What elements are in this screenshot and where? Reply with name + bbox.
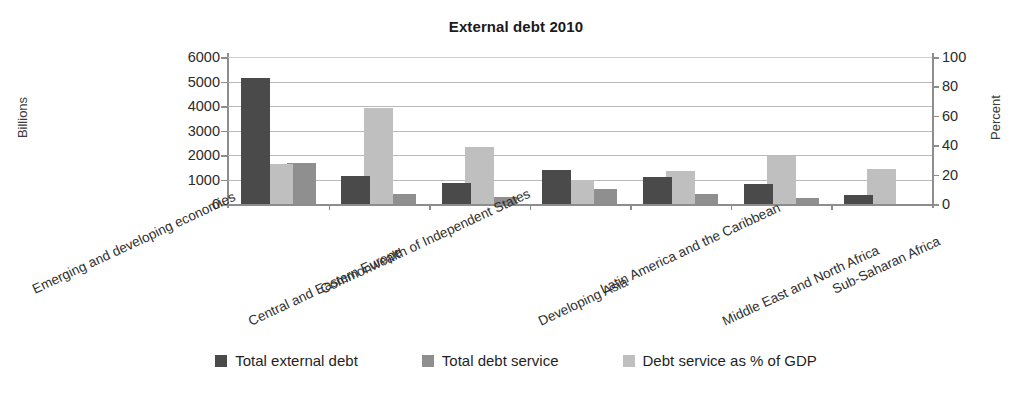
bar-group <box>530 57 631 204</box>
y-tick-left <box>221 106 227 108</box>
y-axis-right-line <box>932 53 934 208</box>
y-tick-label-right: 80 <box>942 79 992 94</box>
plot-area: 0100020003000400050006000 020406080100 <box>228 57 932 204</box>
bar <box>844 195 873 204</box>
legend-swatch-icon <box>215 355 227 367</box>
y-tick-label-left: 6000 <box>160 50 220 65</box>
y-tick-label-right: 100 <box>942 50 992 65</box>
y-tick-label-left: 5000 <box>160 75 220 90</box>
legend-item[interactable]: Total external debt <box>215 352 358 369</box>
bar-group <box>831 57 932 204</box>
bar <box>442 183 471 204</box>
bar-group <box>731 57 832 204</box>
y-tick-right <box>933 175 939 177</box>
x-category-label: Emerging and developing economies <box>30 189 238 296</box>
legend-swatch-icon <box>623 355 635 367</box>
y-tick-label-right: 20 <box>942 168 992 183</box>
y-tick-left <box>221 131 227 133</box>
y-tick-label-left: 2000 <box>160 148 220 163</box>
bar <box>241 78 270 204</box>
bar-group <box>630 57 731 204</box>
chart-title: External debt 2010 <box>0 18 1032 35</box>
x-axis-category-labels: Emerging and developing economiesCentral… <box>0 205 1032 335</box>
legend-swatch-icon <box>422 355 434 367</box>
y-tick-label-right: 40 <box>942 138 992 153</box>
bar-group <box>228 57 329 204</box>
y-tick-right <box>933 145 939 147</box>
bar-group <box>329 57 430 204</box>
y-tick-label-left: 1000 <box>160 173 220 188</box>
bar <box>643 177 672 204</box>
y-tick-left <box>221 180 227 182</box>
bar <box>744 184 773 204</box>
y-tick-left <box>221 82 227 84</box>
y-tick-left <box>221 155 227 157</box>
y-tick-label-right: 60 <box>942 109 992 124</box>
bar <box>542 170 571 204</box>
bar <box>341 176 370 204</box>
y-tick-right <box>933 86 939 88</box>
legend-label: Debt service as % of GDP <box>643 352 817 369</box>
legend-item[interactable]: Debt service as % of GDP <box>623 352 817 369</box>
legend-label: Total debt service <box>442 352 559 369</box>
y-tick-label-left: 3000 <box>160 124 220 139</box>
x-category-label: Latin America and the Caribbean <box>598 200 783 297</box>
chart-legend: Total external debtTotal debt serviceDeb… <box>0 352 1032 369</box>
y-tick-right <box>933 116 939 118</box>
y-tick-left <box>221 57 227 59</box>
y-axis-label-left: Billions <box>15 78 30 158</box>
chart-container: External debt 2010 Billions Percent 0100… <box>0 0 1032 401</box>
y-tick-right <box>933 57 939 59</box>
legend-label: Total external debt <box>235 352 358 369</box>
legend-item[interactable]: Total debt service <box>422 352 559 369</box>
bar-group <box>429 57 530 204</box>
y-tick-label-left: 4000 <box>160 99 220 114</box>
